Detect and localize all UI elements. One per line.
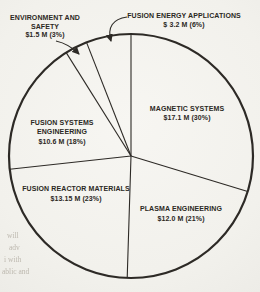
slice-name: ENVIRONMENT AND (0, 14, 90, 23)
slice-value: $17.1 M (30%) (137, 113, 237, 122)
label-fusion-energy-applications: FUSION ENERGY APPLICATIONS $ 3.2 M (6%) (123, 11, 245, 29)
label-magnetic-systems: MAGNETIC SYSTEMS $17.1 M (30%) (137, 104, 237, 122)
slice-value: $13.15 M (23%) (16, 194, 136, 204)
label-fusion-systems-engineering: FUSION SYSTEMS ENGINEERING $10.6 M (18%) (12, 118, 112, 146)
slice-value: $10.6 M (18%) (12, 137, 112, 146)
slice-boundary-line (131, 156, 248, 192)
slice-name: PLASMA ENGINEERING (131, 204, 231, 214)
ghost-text-fragment: i with (4, 255, 21, 264)
label-plasma-engineering: PLASMA ENGINEERING $12.0 M (21%) (131, 204, 231, 223)
ghost-text-fragment: ablic and (2, 267, 29, 276)
slice-name: SAFETY (0, 23, 90, 32)
slice-name: FUSION SYSTEMS (12, 118, 112, 127)
slice-value: $ 3.2 M (6%) (123, 20, 245, 29)
label-fusion-reactor-materials: FUSION REACTOR MATERIALS $13.15 M (23%) (16, 184, 136, 203)
slice-value: $12.0 M (21%) (131, 214, 231, 224)
ghost-text-fragment: adv (9, 243, 20, 252)
slice-name: MAGNETIC SYSTEMS (137, 104, 237, 113)
label-environment-and-safety: ENVIRONMENT AND SAFETY $1.5 M (3%) (0, 14, 90, 40)
ghost-text-fragment: will (7, 231, 19, 240)
slice-name: ENGINEERING (12, 127, 112, 136)
pie-chart-figure: MAGNETIC SYSTEMS $17.1 M (30%) PLASMA EN… (0, 0, 260, 292)
slice-boundary-line (10, 156, 131, 169)
slice-value: $1.5 M (3%) (0, 31, 90, 40)
slice-name: FUSION ENERGY APPLICATIONS (123, 11, 245, 20)
slice-name: FUSION REACTOR MATERIALS (16, 184, 136, 194)
pie-outline-group (9, 34, 253, 278)
pie-svg (0, 0, 260, 292)
